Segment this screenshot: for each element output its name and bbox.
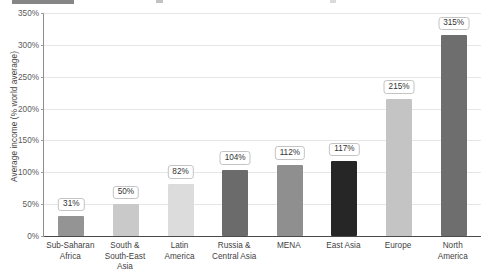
bar-value-label: 215%	[384, 80, 415, 94]
y-axis-tick-label: 300%	[18, 40, 39, 49]
bar-slot: 82%	[153, 13, 208, 236]
bar-chart: Average income (% world average) 0%50%10…	[0, 0, 481, 274]
bar[interactable]	[331, 161, 357, 236]
x-axis-category-label: North America	[416, 241, 481, 262]
bar-slot: 315%	[426, 13, 481, 236]
bar[interactable]	[58, 216, 84, 236]
y-axis-tick-label: 100%	[18, 168, 39, 177]
y-axis-tick-label: 50%	[23, 200, 39, 209]
bar-value-label: 82%	[167, 165, 193, 179]
bar[interactable]	[113, 204, 139, 236]
bar[interactable]	[277, 165, 303, 236]
bar-value-label: 315%	[438, 17, 469, 31]
bar-slot: 31%	[44, 13, 99, 236]
bar-slot: 50%	[99, 13, 154, 236]
bar-value-label: 104%	[220, 151, 251, 165]
y-axis-tick-label: 350%	[18, 9, 39, 18]
y-axis-tick-label: 200%	[18, 104, 39, 113]
bar-value-label: 112%	[275, 146, 305, 160]
y-axis-tick-label: 0%	[27, 232, 39, 241]
bar[interactable]	[386, 99, 412, 236]
bar-slot: 104%	[208, 13, 263, 236]
bar-value-label: 31%	[58, 198, 84, 212]
bar[interactable]	[168, 184, 194, 236]
plot-area: 0%50%100%150%200%250%300%350% 31%50%82%1…	[43, 13, 481, 237]
y-axis-tick-label: 250%	[18, 72, 39, 81]
bar-slot: 117%	[317, 13, 372, 236]
bar-slot: 112%	[263, 13, 318, 236]
bar-value-label: 117%	[329, 143, 359, 157]
bar-slot: 215%	[372, 13, 427, 236]
y-axis-tick-label: 150%	[18, 136, 39, 145]
bar-value-label: 50%	[113, 186, 139, 200]
bar[interactable]	[441, 35, 467, 236]
bar[interactable]	[222, 170, 248, 236]
y-axis-tick-mark	[41, 236, 44, 237]
